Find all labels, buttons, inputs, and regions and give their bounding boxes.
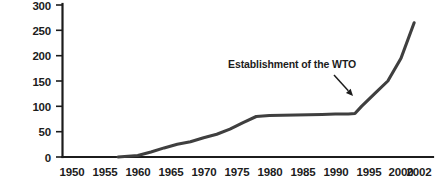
- y-tick-label: 200: [32, 50, 51, 62]
- x-tick-label: 2002: [407, 166, 432, 178]
- x-tick-label: 1960: [126, 166, 151, 178]
- y-tick-label: 50: [39, 126, 51, 138]
- x-tick-label: 1975: [225, 166, 251, 178]
- x-tick-label: 1980: [258, 166, 283, 178]
- x-axis-labels: 1950 1955 1960 1965 1970 1975 1980 1985 …: [60, 166, 432, 178]
- chart-container: 300 250 200 150 100 50 0 1950 1955 1960 …: [0, 0, 435, 181]
- x-tick-label: 1985: [291, 166, 317, 178]
- x-tick-label: 1995: [357, 166, 383, 178]
- chart-background: [0, 0, 435, 181]
- x-tick-label: 1950: [60, 166, 85, 178]
- y-tick-label: 100: [32, 101, 51, 113]
- line-chart: 300 250 200 150 100 50 0 1950 1955 1960 …: [0, 0, 435, 181]
- x-tick-label: 1965: [159, 166, 185, 178]
- y-tick-label: 150: [32, 76, 51, 88]
- y-tick-label: 250: [32, 25, 51, 37]
- x-tick-label: 1970: [192, 166, 217, 178]
- y-tick-label: 0: [45, 152, 51, 164]
- annotation-label: Establishment of the WTO: [228, 58, 356, 70]
- x-tick-label: 1955: [93, 166, 119, 178]
- y-tick-label: 300: [32, 0, 51, 12]
- x-tick-label: 1990: [324, 166, 349, 178]
